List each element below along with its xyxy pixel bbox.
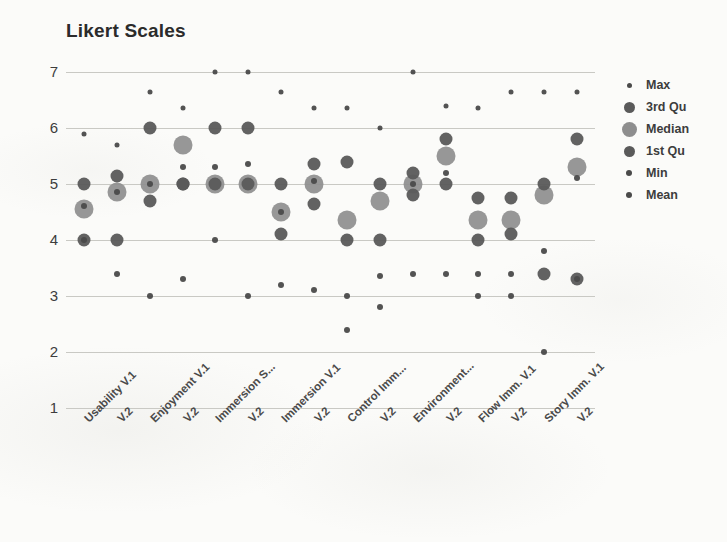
- data-point: [472, 192, 485, 205]
- data-point: [439, 178, 452, 191]
- data-point: [110, 169, 123, 182]
- data-point: [180, 276, 186, 282]
- data-point: [439, 133, 452, 146]
- legend-marker-icon: [624, 146, 635, 157]
- data-point: [209, 122, 222, 135]
- data-point: [242, 122, 255, 135]
- data-point: [245, 293, 251, 299]
- data-point: [275, 228, 288, 241]
- data-point: [308, 158, 321, 171]
- data-point: [509, 89, 514, 94]
- data-point: [176, 178, 189, 191]
- data-point: [212, 164, 218, 170]
- legend-swatch-box: [618, 146, 640, 157]
- data-point: [114, 271, 120, 277]
- y-tick-label-6: 6: [36, 119, 58, 136]
- data-point: [78, 178, 91, 191]
- data-point: [505, 192, 518, 205]
- plot-area: [66, 72, 595, 408]
- data-point: [312, 106, 317, 111]
- data-point: [370, 191, 389, 210]
- legend-swatch-box: [618, 170, 640, 176]
- legend-swatch-box: [618, 102, 640, 113]
- data-point: [242, 178, 255, 191]
- legend-label: Max: [646, 78, 670, 92]
- data-point: [311, 178, 317, 184]
- data-point: [410, 70, 415, 75]
- data-point: [568, 158, 587, 177]
- data-point: [110, 234, 123, 247]
- legend-marker-icon: [626, 192, 632, 198]
- data-point: [180, 164, 186, 170]
- legend-swatch-box: [618, 83, 640, 88]
- y-tick-label-5: 5: [36, 175, 58, 192]
- legend-label: 3rd Qu: [646, 100, 686, 114]
- data-point: [114, 142, 119, 147]
- chart-legend: Max3rd QuMedian1st QuMinMean: [618, 74, 722, 206]
- legend-item[interactable]: 3rd Qu: [618, 96, 722, 118]
- legend-marker-icon: [626, 170, 632, 176]
- legend-marker-icon: [627, 83, 632, 88]
- data-point: [209, 178, 222, 191]
- legend-item[interactable]: 1st Qu: [618, 140, 722, 162]
- data-point: [377, 304, 383, 310]
- data-point: [340, 155, 353, 168]
- data-point: [147, 89, 152, 94]
- data-point: [443, 271, 449, 277]
- data-point: [406, 189, 419, 202]
- data-point: [246, 70, 251, 75]
- data-point: [508, 271, 514, 277]
- data-point: [311, 287, 317, 293]
- data-point: [143, 122, 156, 135]
- gridline-3: [66, 296, 595, 297]
- data-point: [82, 131, 87, 136]
- y-tick-label-2: 2: [36, 343, 58, 360]
- data-point: [541, 248, 547, 254]
- data-point: [344, 293, 350, 299]
- legend-item[interactable]: Max: [618, 74, 722, 96]
- data-point: [245, 161, 251, 167]
- data-point: [81, 237, 87, 243]
- chart-screenshot: Likert Scales 1234567 Max3rd QuMedian1st…: [0, 0, 727, 542]
- data-point: [278, 209, 284, 215]
- legend-marker-icon: [624, 102, 635, 113]
- legend-item[interactable]: Min: [618, 162, 722, 184]
- data-point: [279, 89, 284, 94]
- y-axis: 1234567: [30, 72, 58, 408]
- data-point: [373, 178, 386, 191]
- data-point: [542, 89, 547, 94]
- y-tick-label-7: 7: [36, 63, 58, 80]
- data-point: [278, 282, 284, 288]
- page-title: Likert Scales: [66, 20, 186, 42]
- legend-label: 1st Qu: [646, 144, 685, 158]
- data-point: [575, 89, 580, 94]
- data-point: [574, 175, 580, 181]
- data-point: [541, 349, 547, 355]
- legend-label: Mean: [646, 188, 678, 202]
- data-point: [574, 276, 580, 282]
- data-point: [147, 181, 153, 187]
- data-point: [436, 147, 455, 166]
- data-point: [344, 106, 349, 111]
- data-point: [373, 234, 386, 247]
- y-tick-label-1: 1: [36, 399, 58, 416]
- data-point: [475, 293, 481, 299]
- data-point: [377, 273, 383, 279]
- legend-item[interactable]: Median: [618, 118, 722, 140]
- data-point: [475, 271, 481, 277]
- data-point: [410, 181, 416, 187]
- data-point: [469, 211, 488, 230]
- data-point: [443, 170, 449, 176]
- data-point: [173, 135, 192, 154]
- legend-swatch-box: [618, 122, 640, 137]
- data-point: [508, 293, 514, 299]
- gridline-7: [66, 72, 595, 73]
- data-point: [571, 133, 584, 146]
- data-point: [143, 194, 156, 207]
- data-point: [180, 106, 185, 111]
- legend-item[interactable]: Mean: [618, 184, 722, 206]
- data-point: [538, 267, 551, 280]
- data-point: [443, 103, 448, 108]
- data-point: [213, 70, 218, 75]
- data-point: [114, 189, 120, 195]
